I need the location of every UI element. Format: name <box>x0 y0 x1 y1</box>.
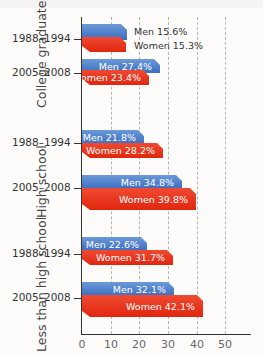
x-tick-label: 20 <box>132 338 146 351</box>
bar-women-lths-2005: Women 42.1% <box>82 295 203 317</box>
bar-men-lths-1988: Men 22.6% <box>82 237 147 251</box>
period-label: 2005–2008 <box>12 66 72 78</box>
bar-men-hs-2005: Men 34.8% <box>82 175 182 189</box>
gridline-40 <box>197 17 198 334</box>
chart: College graduate High school Less than h… <box>0 0 263 355</box>
bar-women-college-1988 <box>82 37 126 52</box>
group-label-less-than-high-school: Less than high school <box>34 217 49 352</box>
x-tick-label: 0 <box>79 338 86 351</box>
bar-women-hs-2005: Women 39.8% <box>82 188 196 210</box>
period-tick <box>74 39 81 40</box>
period-tick <box>74 298 81 299</box>
x-tick-label: 30 <box>161 338 175 351</box>
y-axis <box>81 17 82 335</box>
period-tick <box>74 254 81 255</box>
label-men-college-1988: Men 15.6% <box>134 26 187 37</box>
gridline-50 <box>225 17 226 334</box>
x-tick-label: 50 <box>218 338 232 351</box>
label-women-college-1988: Women 15.3% <box>134 40 203 51</box>
period-tick <box>74 73 81 74</box>
period-label: 1988–1994 <box>12 32 72 44</box>
period-tick <box>74 188 81 189</box>
group-label-college: College graduate <box>34 1 49 108</box>
bar-men-lths-2005: Men 32.1% <box>82 282 174 296</box>
bar-women-lths-1988: Women 31.7% <box>82 250 173 265</box>
period-tick <box>74 143 81 144</box>
x-axis <box>81 334 251 335</box>
period-label: 1988–1994 <box>12 136 72 148</box>
period-label: 2005–2008 <box>12 291 72 303</box>
period-label: 2005–2008 <box>12 181 72 193</box>
x-tick-label: 10 <box>104 338 118 351</box>
period-label: 1988–1994 <box>12 247 72 259</box>
bar-women-college-2005: Women 23.4% <box>82 70 149 85</box>
bar-men-hs-1988: Men 21.8% <box>82 130 144 144</box>
bar-women-hs-1988: Women 28.2% <box>82 143 163 158</box>
x-tick-label: 40 <box>190 338 204 351</box>
